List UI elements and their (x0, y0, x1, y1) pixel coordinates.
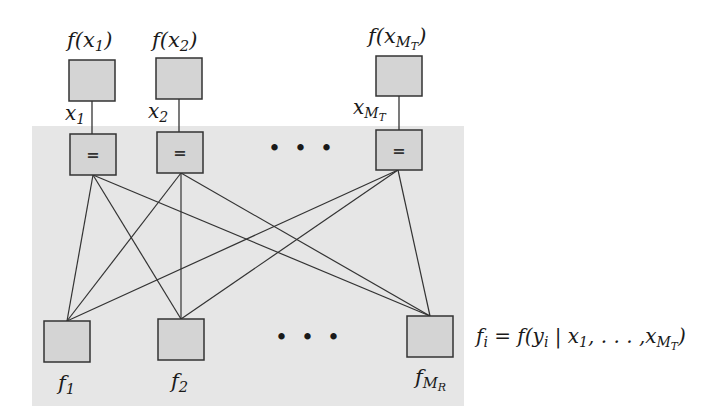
variable-label-1: x1 (65, 101, 85, 125)
observation-factor-label-2: f2 (171, 369, 188, 393)
variable-label-mt: xMT (353, 95, 386, 119)
ellipsis-top: • • • (268, 136, 336, 161)
observation-factor-label-mr: fMR (415, 365, 446, 389)
equality-symbol-1: = (86, 145, 99, 164)
equality-symbol-2: = (173, 143, 186, 162)
prior-factor-node-2 (156, 58, 202, 99)
equality-symbol-mt: = (392, 141, 405, 160)
variable-label-2: x2 (148, 99, 168, 123)
prior-factor-label-1: f(x1) (67, 28, 112, 52)
prior-factor-node-mt (376, 56, 422, 96)
prior-factor-label-mt: f(xMT) (368, 24, 426, 48)
factor-graph-diagram: = = = f(x1) f(x2) f(xMT) x1 x2 xMT • • •… (0, 0, 716, 413)
prior-factor-label-2: f(x2) (152, 28, 197, 52)
observation-factor-node-mr (407, 316, 453, 357)
observation-factor-node-1 (44, 321, 90, 362)
factor-definition-equation: fi = f(yi | x1, . . . ,xMT) (476, 324, 686, 348)
prior-factor-node-1 (69, 60, 115, 101)
ellipsis-bottom: • • • (275, 325, 343, 350)
factor-graph-canvas: = = = (0, 0, 716, 413)
observation-factor-node-2 (158, 319, 204, 360)
observation-factor-label-1: f1 (58, 371, 75, 395)
